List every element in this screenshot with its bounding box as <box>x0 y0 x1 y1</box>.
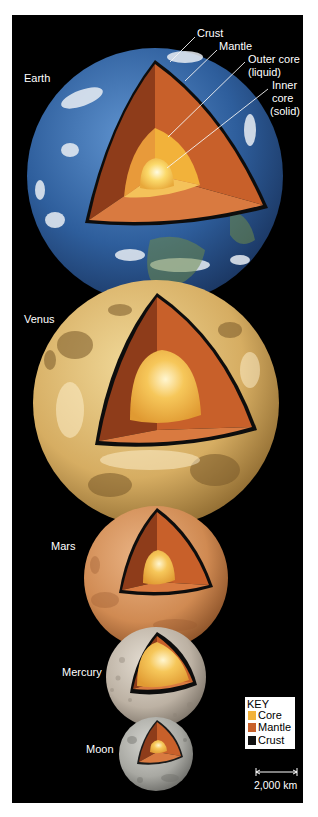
venus-label: Venus <box>24 313 55 325</box>
mercury-planet <box>106 627 206 727</box>
planet-interiors-diagram: Earth Crust Mantle Outer core (liquid) I… <box>0 0 318 817</box>
mercury-label: Mercury <box>62 666 102 678</box>
earth-label: Earth <box>24 72 50 84</box>
moon-label: Moon <box>86 743 114 755</box>
outer-core-label: Outer core <box>248 53 300 65</box>
key-swatch-crust <box>248 736 256 745</box>
moon-planet <box>119 717 193 791</box>
inner-core-state-label: (solid) <box>270 105 300 117</box>
venus-planet <box>33 280 279 526</box>
inner-core-label-2: core <box>272 92 293 104</box>
key-label-crust: Crust <box>258 734 284 746</box>
key-swatch-mantle <box>248 723 256 732</box>
legend-key: KEY Core Mantle Crust <box>245 697 295 749</box>
mantle-label: Mantle <box>219 40 252 52</box>
outer-core-state-label: (liquid) <box>248 66 281 78</box>
inner-core-label: Inner <box>272 79 297 91</box>
crust-label: Crust <box>197 27 223 39</box>
scale-bar-label: 2,000 km <box>254 779 297 791</box>
key-swatch-core <box>248 711 256 720</box>
key-label-mantle: Mantle <box>258 721 291 733</box>
mars-label: Mars <box>51 540 76 552</box>
key-label-core: Core <box>258 709 282 721</box>
